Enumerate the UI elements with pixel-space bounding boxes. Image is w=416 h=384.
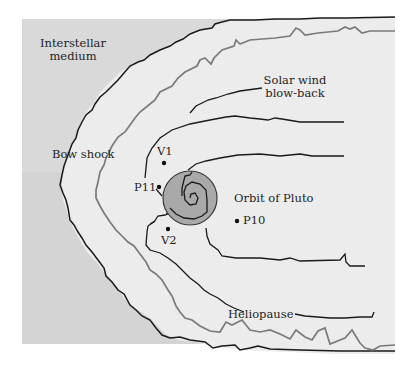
label-solar-wind-line2: blow-back: [262, 87, 328, 100]
label-v1: V1: [157, 145, 173, 158]
label-p11: P11: [134, 181, 156, 194]
label-v2: V2: [161, 234, 177, 247]
p10-dot: [235, 219, 239, 223]
heliosphere-diagram: Interstellar medium Bow shock Solar wind…: [0, 0, 416, 384]
label-bow-shock: Bow shock: [52, 148, 115, 161]
label-interstellar-medium: Interstellar medium: [38, 37, 108, 63]
label-orbit-of-pluto: Orbit of Pluto: [234, 192, 313, 205]
v2-dot: [166, 227, 170, 231]
label-solar-wind-blowback: Solar wind blow-back: [262, 74, 328, 100]
label-heliopause: Heliopause: [228, 308, 293, 321]
v1-dot: [162, 161, 166, 165]
label-interstellar-line2: medium: [38, 50, 108, 63]
p11-dot: [157, 185, 161, 189]
label-p10: P10: [243, 214, 265, 227]
